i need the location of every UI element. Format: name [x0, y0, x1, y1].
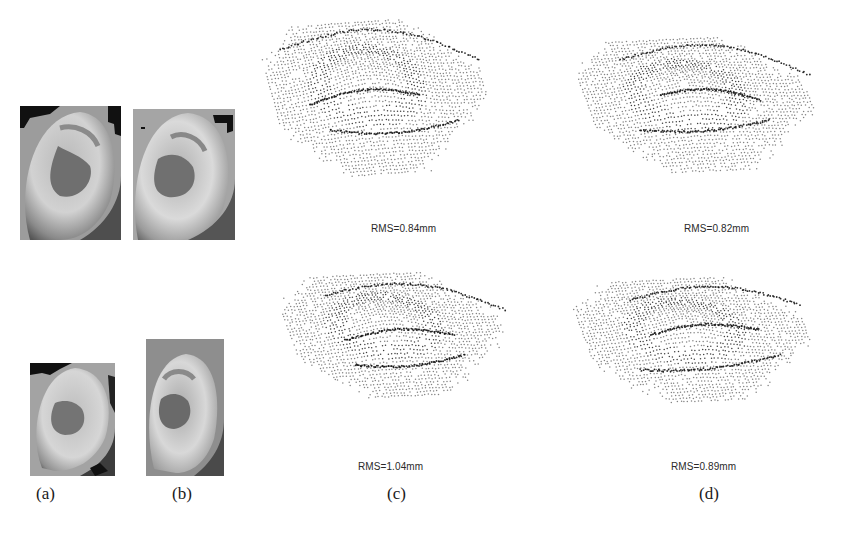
subfigure-label-a: (a)	[36, 484, 55, 504]
subfigure-label-d: (d)	[699, 484, 719, 504]
rms-label-c-row1: RMS=0.84mm	[371, 223, 436, 234]
point-cloud-d-row2	[560, 260, 850, 430]
rms-label-d-row2: RMS=0.89mm	[671, 461, 736, 472]
ear-photo-a-row2	[30, 363, 115, 476]
ear-photo-b-row2	[146, 339, 224, 476]
rms-label-d-row1: RMS=0.82mm	[684, 223, 749, 234]
rms-label-c-row2: RMS=1.04mm	[358, 461, 423, 472]
subfigure-label-b: (b)	[172, 484, 192, 504]
ear-photo-a-row1	[20, 106, 121, 240]
point-cloud-d-row1	[560, 25, 850, 205]
ear-photo-b-row1	[133, 109, 235, 240]
subfigure-label-c: (c)	[387, 484, 406, 504]
point-cloud-c-row2	[265, 255, 545, 430]
point-cloud-c-row1	[250, 10, 520, 210]
